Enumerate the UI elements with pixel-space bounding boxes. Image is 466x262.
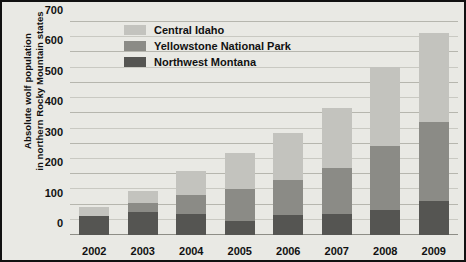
bar-segment[interactable] [128,191,158,203]
bar-segment[interactable] [370,146,400,210]
y-axis-tick-label: 600 [45,34,63,46]
bar-segment[interactable] [322,168,352,213]
bar-segment[interactable] [322,214,352,235]
x-axis-tick-label: 2002 [82,245,106,257]
x-axis-tick-label: 2003 [131,245,155,257]
bar-group[interactable]: 2008 [370,22,400,235]
bar-segment[interactable] [322,108,352,169]
bar-segment[interactable] [370,210,400,235]
bar-segment[interactable] [176,195,206,213]
bar-segment[interactable] [79,207,109,216]
bar-segment[interactable] [79,216,109,235]
bar-segment[interactable] [128,212,158,235]
bar-segment[interactable] [273,215,303,235]
bar-segment[interactable] [273,133,303,180]
y-axis-tick-label: 700 [45,4,63,16]
y-axis-tick-label: 500 [45,65,63,77]
x-axis-tick-label: 2004 [179,245,203,257]
legend-label: Central Idaho [154,24,224,36]
legend-swatch-icon [124,41,146,51]
bar-segment[interactable] [225,221,255,235]
legend-swatch-icon [124,25,146,35]
x-axis-tick-label: 2009 [422,245,446,257]
chart-figure: Absolute wolf population in northern Roc… [0,0,466,262]
legend-swatch-icon [124,57,146,67]
y-axis-tick-label: 400 [45,95,63,107]
legend-item[interactable]: Yellowstone National Park [124,40,291,52]
y-axis-tick-label: 100 [45,187,63,199]
bar-group[interactable]: 2002 [79,22,109,235]
x-axis-tick-label: 2007 [325,245,349,257]
bar-segment[interactable] [419,201,449,235]
bar-segment[interactable] [176,171,206,195]
x-axis-tick-label: 2005 [228,245,252,257]
x-axis-tick-label: 2008 [373,245,397,257]
bar-segment[interactable] [128,203,158,212]
legend-label: Yellowstone National Park [154,40,291,52]
bar-segment[interactable] [225,189,255,221]
legend: Central IdahoYellowstone National ParkNo… [124,24,291,72]
y-axis-tick-label: 0 [57,217,63,229]
bar-group[interactable]: 2009 [419,22,449,235]
legend-item[interactable]: Northwest Montana [124,56,291,68]
bar-segment[interactable] [225,153,255,189]
bar-group[interactable]: 2007 [322,22,352,235]
legend-label: Northwest Montana [154,56,256,68]
bar-segment[interactable] [370,67,400,146]
y-axis-title-line-1: Absolute wolf population [22,0,34,186]
x-axis-tick-label: 2006 [276,245,300,257]
bar-segment[interactable] [273,180,303,215]
bar-segment[interactable] [176,214,206,235]
legend-item[interactable]: Central Idaho [124,24,291,36]
y-axis-tick-label: 200 [45,156,63,168]
bar-segment[interactable] [419,122,449,201]
bar-segment[interactable] [419,33,449,122]
y-axis-title: Absolute wolf population in northern Roc… [22,0,46,186]
y-axis-tick-label: 300 [45,126,63,138]
